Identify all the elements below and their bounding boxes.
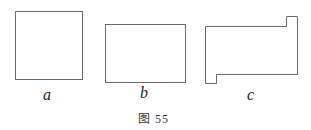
shape-c-notched <box>206 17 298 84</box>
label-a: a <box>43 86 51 104</box>
shape-b-rectangle <box>106 25 186 83</box>
figure-caption: 图 55 <box>138 109 169 127</box>
label-c: c <box>247 86 254 104</box>
label-b: b <box>140 84 148 102</box>
shape-a-square <box>16 12 83 80</box>
